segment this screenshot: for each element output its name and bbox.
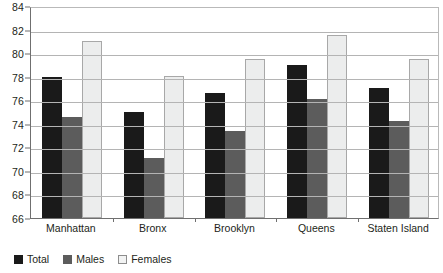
bar-group	[31, 8, 113, 218]
x-axis-label-queens: Queens	[298, 221, 335, 235]
y-tick-label: 78	[12, 72, 24, 83]
x-axis-label-manhattan: Manhattan	[46, 221, 96, 235]
bar-males-bronx[interactable]	[144, 158, 164, 218]
bars-layer	[31, 8, 438, 218]
legend-item-total[interactable]: Total	[14, 254, 49, 265]
legend-label: Total	[27, 254, 49, 265]
bar-males-queens[interactable]	[307, 99, 327, 218]
bar-females-staten-island[interactable]	[409, 59, 429, 218]
legend-label: Females	[131, 254, 171, 265]
legend-swatch-females-icon	[118, 255, 127, 264]
bar-males-brooklyn[interactable]	[225, 131, 245, 218]
gridline	[31, 32, 438, 33]
gridline	[31, 126, 438, 127]
x-axis-category-labels: ManhattanBronxBrooklynQueensStaten Islan…	[30, 221, 439, 239]
bar-total-bronx[interactable]	[124, 112, 144, 218]
gridline	[31, 102, 438, 103]
y-tick-label: 70	[12, 167, 24, 178]
bar-group	[113, 8, 195, 218]
bar-group	[276, 8, 358, 218]
bar-chart: 66687072747678808284 ManhattanBronxBrook…	[0, 0, 443, 273]
chart-legend: TotalMalesFemales	[14, 254, 171, 265]
gridline	[31, 173, 438, 174]
y-tick-label: 68	[12, 190, 24, 201]
y-tick-label: 74	[12, 120, 24, 131]
y-tick-label: 66	[12, 214, 24, 225]
y-tick-label: 76	[12, 96, 24, 107]
bar-group	[358, 8, 440, 218]
legend-swatch-total-icon	[14, 255, 23, 264]
plot-area	[30, 7, 439, 219]
bar-females-manhattan[interactable]	[82, 41, 102, 218]
y-tick-label: 84	[12, 2, 24, 13]
y-tick-label: 72	[12, 143, 24, 154]
bar-males-staten-island[interactable]	[389, 121, 409, 218]
y-tick-label: 82	[12, 25, 24, 36]
bar-females-brooklyn[interactable]	[245, 59, 265, 218]
bar-total-queens[interactable]	[287, 65, 307, 218]
legend-item-males[interactable]: Males	[63, 254, 104, 265]
y-axis: 66687072747678808284	[0, 0, 30, 273]
bar-total-brooklyn[interactable]	[205, 93, 225, 218]
x-axis-label-staten-island: Staten Island	[367, 221, 428, 235]
bar-total-staten-island[interactable]	[369, 88, 389, 218]
x-axis-label-bronx: Bronx	[139, 221, 166, 235]
gridline	[31, 196, 438, 197]
x-axis-label-brooklyn: Brooklyn	[214, 221, 255, 235]
legend-item-females[interactable]: Females	[118, 254, 171, 265]
bar-males-manhattan[interactable]	[62, 117, 82, 218]
y-tick-label: 80	[12, 49, 24, 60]
gridline	[31, 55, 438, 56]
gridline	[31, 79, 438, 80]
gridline	[31, 149, 438, 150]
legend-label: Males	[76, 254, 104, 265]
bar-group	[195, 8, 277, 218]
legend-swatch-males-icon	[63, 255, 72, 264]
